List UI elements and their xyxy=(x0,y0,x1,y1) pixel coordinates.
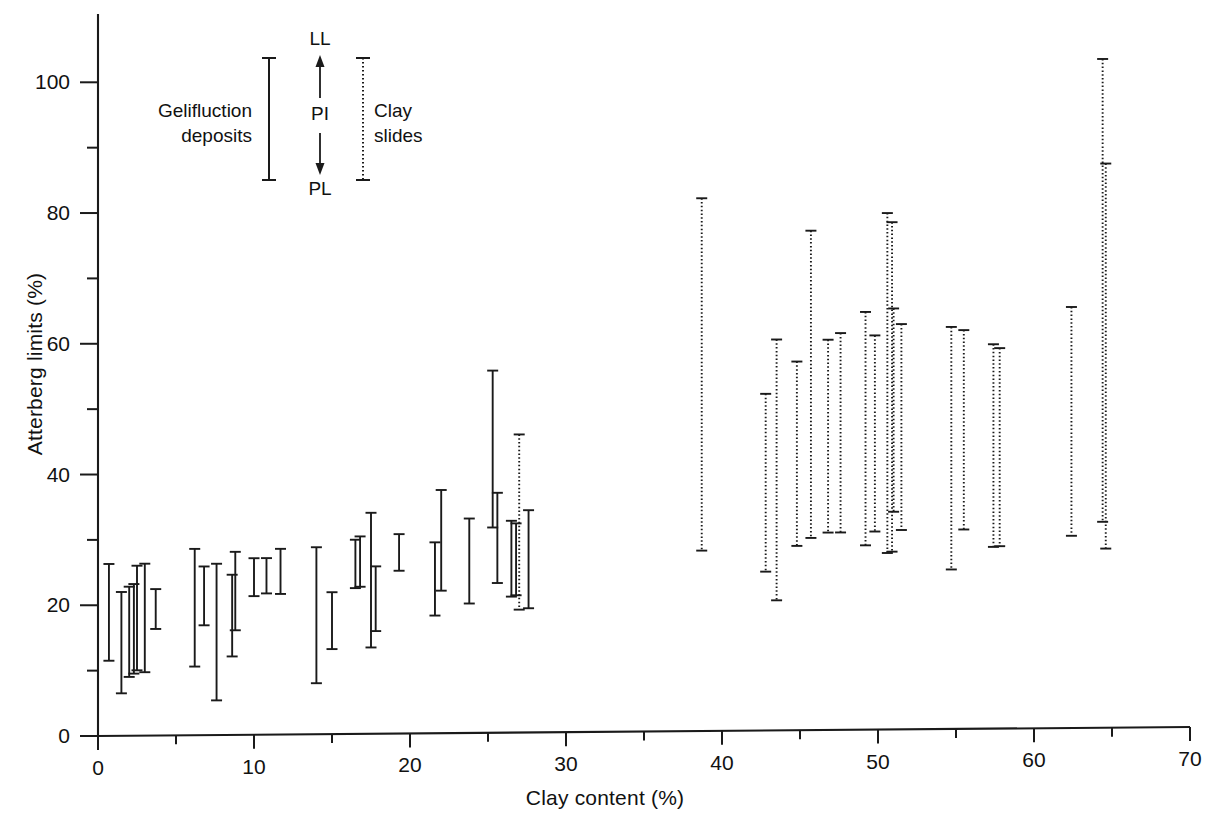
legend-down-arrow-head xyxy=(316,163,325,175)
legend-label-pl: PL xyxy=(290,178,350,200)
x-tick-label: 0 xyxy=(92,756,104,780)
y-tick-label: 100 xyxy=(35,70,70,94)
legend-label-clay-slides: Clay slides xyxy=(374,98,494,148)
axes xyxy=(97,14,1190,736)
y-tick-label: 80 xyxy=(47,201,70,225)
x-tick-label: 30 xyxy=(554,752,577,776)
x-tick-label: 10 xyxy=(242,755,265,779)
x-tick-label: 40 xyxy=(710,751,733,775)
y-tick-label: 0 xyxy=(58,724,70,748)
y-axis-title: Atterberg limits (%) xyxy=(23,234,47,494)
y-tick-marks xyxy=(80,82,98,736)
series-clay-slides xyxy=(514,59,1112,610)
x-tick-label: 60 xyxy=(1022,748,1045,772)
atterberg-limits-chart: Atterberg limits (%) Clay content (%) 02… xyxy=(0,0,1210,823)
series-gelifluction-deposits xyxy=(103,371,534,701)
legend-label-pi: PI xyxy=(290,103,350,125)
legend-up-arrow-head xyxy=(316,55,325,67)
y-tick-label: 60 xyxy=(47,332,70,356)
y-tick-label: 20 xyxy=(47,593,70,617)
x-tick-label: 50 xyxy=(866,750,889,774)
legend-label-ll: LL xyxy=(290,28,350,50)
x-axis-title: Clay content (%) xyxy=(0,786,1210,810)
x-tick-label: 70 xyxy=(1178,747,1201,771)
legend-label-gelifluction: Gelifluction deposits xyxy=(120,98,252,148)
data-bars xyxy=(103,59,1111,700)
y-tick-label: 40 xyxy=(47,463,70,487)
x-tick-label: 20 xyxy=(398,753,421,777)
